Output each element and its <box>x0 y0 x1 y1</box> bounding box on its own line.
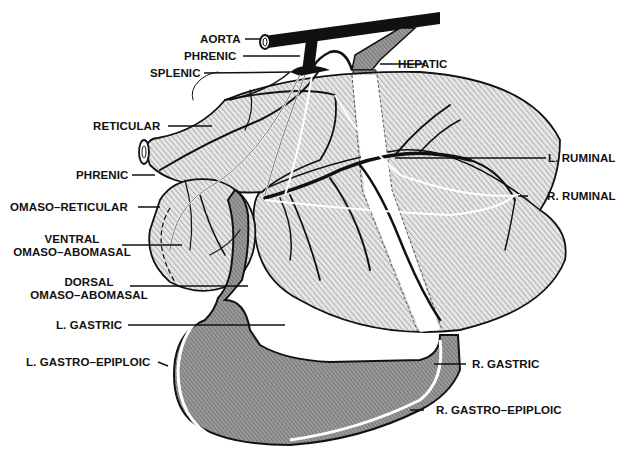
label-hepatic: HEPATIC <box>398 58 447 71</box>
label-l-ruminal: L. RUMINAL <box>548 152 615 165</box>
label-dorsal-line1: DORSAL <box>26 276 152 289</box>
label-aorta: AORTA <box>200 33 241 46</box>
label-splenic: SPLENIC <box>150 67 201 80</box>
label-dorsal-line2: OMASO–ABOMASAL <box>26 289 152 302</box>
label-phrenic-top: PHRENIC <box>184 50 236 63</box>
stomach-artery-diagram <box>0 0 629 458</box>
label-r-ruminal: R. RUMINAL <box>547 190 616 203</box>
label-dorsal-omaso-abomasal: DORSAL OMASO–ABOMASAL <box>26 276 152 302</box>
label-ventral-omaso-abomasal: VENTRAL OMASO–ABOMASAL <box>10 233 134 259</box>
label-omaso-reticular: OMASO–RETICULAR <box>10 201 128 214</box>
label-ventral-line1: VENTRAL <box>10 233 134 246</box>
label-l-gastro-epiploic: L. GASTRO–EPIPLOIC <box>26 356 150 369</box>
label-phrenic-left: PHRENIC <box>76 169 128 182</box>
label-ventral-line2: OMASO–ABOMASAL <box>10 246 134 259</box>
label-r-gastric: R. GASTRIC <box>472 358 539 371</box>
label-reticular: RETICULAR <box>93 120 160 133</box>
label-r-gastro-epiploic: R. GASTRO–EPIPLOIC <box>436 404 562 417</box>
label-l-gastric: L. GASTRIC <box>56 319 122 332</box>
